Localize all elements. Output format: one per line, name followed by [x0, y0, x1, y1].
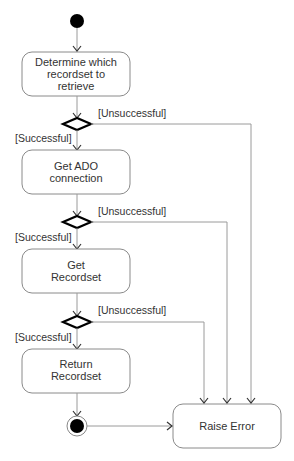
activity-label: recordset to: [47, 68, 105, 80]
initial-node: [70, 14, 84, 28]
guard-successful-2: [Successful]: [15, 231, 72, 243]
decision-node-3: [63, 316, 91, 328]
activity-get-ado-connection: Get ADO connection: [22, 150, 130, 194]
guard-unsuccessful-1: [Unsuccessful]: [98, 107, 166, 119]
activity-label: Recordset: [51, 271, 101, 283]
activity-diagram: Determine which recordset to retrieve [U…: [0, 0, 294, 461]
decision-node-2: [63, 216, 91, 228]
activity-raise-error: Raise Error: [173, 404, 281, 448]
guard-unsuccessful-2: [Unsuccessful]: [98, 205, 166, 217]
activity-label: Get: [67, 259, 85, 271]
activity-get-recordset: Get Recordset: [22, 249, 130, 293]
guard-successful-1: [Successful]: [15, 132, 72, 144]
decision-node-1: [63, 118, 91, 130]
activity-determine-recordset: Determine which recordset to retrieve: [22, 52, 130, 96]
activity-label: Determine which: [35, 56, 117, 68]
activity-label: Get ADO: [54, 160, 98, 172]
activity-label: connection: [49, 172, 102, 184]
activity-label: Raise Error: [199, 420, 255, 432]
final-node: [67, 416, 87, 436]
activity-label: Return: [59, 358, 92, 370]
guard-unsuccessful-3: [Unsuccessful]: [98, 304, 166, 316]
activity-label: Recordset: [51, 370, 101, 382]
activity-label: retrieve: [58, 80, 95, 92]
activity-return-recordset: Return Recordset: [22, 349, 130, 393]
guard-successful-3: [Successful]: [15, 331, 72, 343]
